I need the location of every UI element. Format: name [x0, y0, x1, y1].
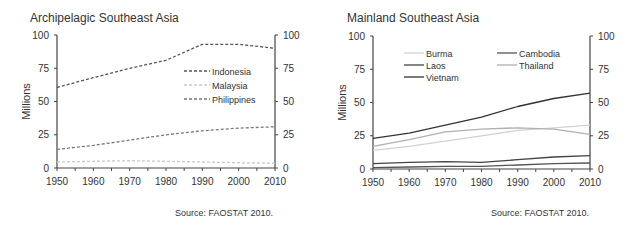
series-line-thailand — [373, 128, 590, 147]
legend-label-laos: Laos — [426, 61, 446, 71]
x-tick-label: 1970 — [434, 177, 457, 188]
x-tick-label: 1950 — [362, 177, 385, 188]
legend-label-cambodia: Cambodia — [519, 49, 560, 59]
y-tick-label-right: 50 — [598, 97, 610, 108]
x-tick-label: 2000 — [543, 177, 566, 188]
y-tick-label-left: 0 — [359, 164, 365, 175]
legend-label-burma: Burma — [426, 49, 453, 59]
right-chart-source: Source: FAOSTAT 2010. — [491, 208, 589, 218]
y-tick-label-left: 25 — [354, 130, 366, 141]
x-tick-label: 2010 — [579, 177, 602, 188]
x-tick-label: 1990 — [507, 177, 530, 188]
legend-label-vietnam: Vietnam — [426, 73, 459, 83]
legend-label-thailand: Thailand — [519, 61, 554, 71]
x-tick-label: 1960 — [398, 177, 421, 188]
x-tick-label: 1980 — [470, 177, 493, 188]
y-tick-label-right: 75 — [598, 64, 610, 75]
right-chart-plot: 0025255050757510010019501960197019801990… — [0, 0, 631, 229]
y-tick-label-right: 25 — [598, 130, 610, 141]
series-line-laos — [373, 156, 590, 164]
y-tick-label-right: 0 — [598, 164, 604, 175]
y-tick-label-left: 50 — [354, 97, 366, 108]
y-tick-label-left: 100 — [348, 31, 365, 42]
y-tick-label-left: 75 — [354, 64, 366, 75]
y-tick-label-right: 100 — [598, 31, 615, 42]
y-axis-label: Millions — [336, 84, 348, 121]
series-line-vietnam — [373, 93, 590, 138]
series-line-cambodia — [373, 163, 590, 168]
